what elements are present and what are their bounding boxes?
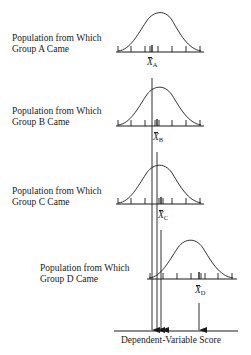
population-label-c: Population from Which Group C Came (12, 186, 102, 208)
mean-symbol: X (147, 57, 153, 67)
distribution-curve-b (116, 87, 204, 126)
population-label-b: Population from Which Group B Came (12, 106, 102, 128)
label-line-1: Population from Which (12, 33, 102, 44)
mean-subscript: B (159, 136, 163, 143)
mean-subscript: C (164, 214, 168, 221)
population-label-a: Population from Which Group A Came (12, 33, 102, 55)
mean-label-d: XD (195, 285, 206, 296)
distribution-curve-d (147, 240, 237, 279)
label-line-1: Population from Which (12, 106, 102, 117)
mean-symbol: X (158, 210, 164, 220)
label-line-2: Group D Came (40, 274, 130, 285)
mean-symbol: X (195, 285, 201, 295)
axis-label: Dependent-Variable Score (121, 335, 221, 345)
label-line-2: Group A Came (12, 44, 102, 55)
mean-subscript: A (153, 61, 158, 68)
mean-label-c: XC (158, 210, 168, 221)
mean-subscript: D (201, 289, 206, 296)
mean-label-b: XB (153, 132, 163, 143)
label-line-2: Group C Came (12, 197, 102, 208)
mean-symbol: X (153, 132, 159, 142)
population-label-d: Population from Which Group D Came (40, 263, 130, 285)
label-line-1: Population from Which (40, 263, 130, 274)
label-line-2: Group B Came (12, 117, 102, 128)
distribution-curve-a (116, 13, 204, 52)
distribution-curve-c (116, 165, 204, 204)
label-line-1: Population from Which (12, 186, 102, 197)
mean-label-a: XA (147, 57, 158, 68)
